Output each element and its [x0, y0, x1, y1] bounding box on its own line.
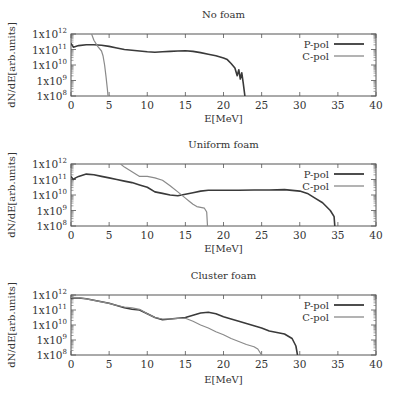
x-tick-label: 25 — [255, 229, 268, 241]
y-tick-exponent: 11 — [58, 43, 67, 51]
y-tick-label: 1x1010 — [32, 58, 67, 71]
y-tick-label: 1x108 — [37, 89, 67, 102]
x-tick-label: 30 — [293, 358, 306, 370]
x-tick-label: 25 — [255, 358, 268, 370]
chart-figure: No foam05101520253035401x10121x10111x101… — [0, 0, 397, 403]
x-tick-label: 10 — [141, 358, 154, 370]
y-tick-exponent: 8 — [63, 219, 67, 227]
legend-label: P-pol — [304, 169, 329, 180]
plot-frame — [71, 295, 376, 355]
y-tick-exponent: 8 — [63, 348, 67, 356]
y-tick-base: 1x10 — [32, 28, 58, 40]
legend-label: P-pol — [304, 300, 329, 311]
chart-title: Uniform foam — [188, 139, 259, 150]
y-tick-label: 1x109 — [37, 204, 67, 217]
x-tick-label: 5 — [106, 358, 113, 370]
y-tick-label: 1x109 — [37, 74, 67, 87]
x-tick-label: 20 — [217, 358, 230, 370]
y-tick-exponent: 12 — [58, 157, 67, 165]
y-tick-base: 1x10 — [37, 90, 63, 102]
legend-label: C-pol — [302, 312, 329, 323]
chart-title: Cluster foam — [191, 270, 257, 281]
x-tick-label: 5 — [106, 99, 113, 111]
series-line-c-pol — [121, 164, 208, 226]
series-line-c-pol — [71, 297, 262, 355]
y-tick-base: 1x10 — [32, 289, 58, 301]
y-tick-base: 1x10 — [32, 189, 58, 201]
y-tick-label: 1x1011 — [32, 43, 67, 56]
y-tick-exponent: 10 — [58, 318, 67, 326]
y-tick-exponent: 10 — [58, 58, 67, 66]
y-tick-exponent: 11 — [58, 173, 67, 181]
y-tick-exponent: 9 — [63, 74, 67, 82]
y-tick-label: 1x1010 — [32, 318, 67, 331]
chart-panel-0: No foam05101520253035401x10121x10111x101… — [6, 9, 383, 124]
chart-panel-1: Uniform foam05101520253035401x10121x1011… — [6, 139, 383, 254]
y-tick-exponent: 9 — [63, 204, 67, 212]
y-tick-label: 1x1012 — [32, 288, 67, 301]
y-tick-base: 1x10 — [32, 319, 58, 331]
x-tick-label: 10 — [141, 99, 154, 111]
plot-frame — [71, 34, 376, 96]
legend-label: P-pol — [304, 39, 329, 50]
plot-frame — [71, 164, 376, 226]
y-tick-label: 1x1011 — [32, 303, 67, 316]
x-tick-label: 20 — [217, 99, 230, 111]
y-tick-base: 1x10 — [32, 174, 58, 186]
chart-panel-2: Cluster foam05101520253035401x10121x1011… — [6, 270, 383, 385]
series-line-p-pol — [71, 43, 245, 96]
x-tick-label: 25 — [255, 99, 268, 111]
x-tick-label: 40 — [369, 229, 382, 241]
x-tick-label: 0 — [68, 229, 75, 241]
x-tick-label: 15 — [179, 358, 192, 370]
series-line-c-pol — [92, 34, 108, 96]
y-tick-base: 1x10 — [37, 220, 63, 232]
x-tick-label: 40 — [369, 358, 382, 370]
x-tick-label: 10 — [141, 229, 154, 241]
x-tick-label: 0 — [68, 358, 75, 370]
y-tick-exponent: 12 — [58, 27, 67, 35]
y-tick-base: 1x10 — [37, 349, 63, 361]
legend-label: C-pol — [302, 51, 329, 62]
y-tick-label: 1x1012 — [32, 27, 67, 40]
y-tick-exponent: 10 — [58, 188, 67, 196]
y-tick-base: 1x10 — [32, 44, 58, 56]
y-axis-label: dN/dE[arb.units] — [6, 282, 17, 368]
y-axis-label: dN/dE[arb.units] — [6, 22, 17, 108]
x-tick-label: 35 — [331, 358, 344, 370]
y-tick-base: 1x10 — [32, 304, 58, 316]
x-tick-label: 15 — [179, 229, 192, 241]
x-tick-label: 35 — [331, 99, 344, 111]
chart-title: No foam — [202, 9, 246, 20]
y-tick-base: 1x10 — [32, 158, 58, 170]
y-tick-exponent: 12 — [58, 288, 67, 296]
x-tick-label: 15 — [179, 99, 192, 111]
y-tick-base: 1x10 — [37, 205, 63, 217]
x-tick-label: 30 — [293, 229, 306, 241]
y-tick-label: 1x109 — [37, 333, 67, 346]
x-axis-label: E[MeV] — [204, 243, 243, 254]
x-tick-label: 20 — [217, 229, 230, 241]
y-tick-label: 1x108 — [37, 219, 67, 232]
y-tick-base: 1x10 — [32, 59, 58, 71]
x-tick-label: 40 — [369, 99, 382, 111]
y-tick-label: 1x1011 — [32, 173, 67, 186]
y-tick-exponent: 11 — [58, 303, 67, 311]
x-axis-label: E[MeV] — [204, 374, 243, 385]
series-line-p-pol — [71, 174, 335, 226]
y-tick-exponent: 9 — [63, 333, 67, 341]
y-tick-exponent: 8 — [63, 89, 67, 97]
x-axis-label: E[MeV] — [204, 113, 243, 124]
series-line-p-pol — [71, 298, 298, 355]
x-tick-label: 5 — [106, 229, 113, 241]
x-tick-label: 35 — [331, 229, 344, 241]
y-tick-base: 1x10 — [37, 334, 63, 346]
x-tick-label: 0 — [68, 99, 75, 111]
y-tick-label: 1x1010 — [32, 188, 67, 201]
x-tick-label: 30 — [293, 99, 306, 111]
y-axis-label: dN/dE[arb.units] — [6, 152, 17, 238]
y-tick-label: 1x1012 — [32, 157, 67, 170]
y-tick-base: 1x10 — [37, 75, 63, 87]
legend-label: C-pol — [302, 181, 329, 192]
y-tick-label: 1x108 — [37, 348, 67, 361]
